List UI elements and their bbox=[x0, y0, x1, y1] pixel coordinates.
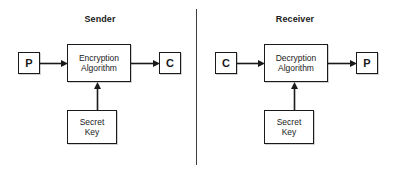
arrow-decryption-to-plaintext-icon bbox=[328, 60, 357, 67]
sender-secret-key-line-2: Key bbox=[85, 127, 100, 137]
encryption-algorithm-line-2: Algorithm bbox=[81, 63, 117, 73]
decryption-algorithm-line-2: Algorithm bbox=[278, 63, 314, 73]
arrow-encryption-to-ciphertext-icon bbox=[131, 60, 160, 67]
arrow-ciphertext-to-decryption-icon bbox=[237, 60, 265, 67]
panel-divider bbox=[196, 9, 197, 165]
arrow-secret-key-to-encryption-icon bbox=[94, 82, 101, 111]
receiver-secret-key-line-2: Key bbox=[282, 127, 297, 137]
receiver-plaintext-node: P bbox=[356, 52, 378, 74]
sender-secret-key-line-1: Secret bbox=[80, 117, 105, 127]
sender-plaintext-node: P bbox=[18, 52, 40, 74]
sender-panel-title: Sender bbox=[60, 14, 140, 24]
encryption-algorithm-node: Encryption Algorithm bbox=[67, 44, 131, 82]
receiver-ciphertext-node: C bbox=[215, 52, 237, 74]
receiver-secret-key-node: Secret Key bbox=[264, 110, 314, 144]
receiver-secret-key-line-1: Secret bbox=[277, 117, 302, 127]
diagram-canvas: Sender Receiver P Encryption Algorithm C… bbox=[0, 0, 394, 171]
receiver-panel-title: Receiver bbox=[255, 14, 335, 24]
sender-ciphertext-node: C bbox=[159, 52, 181, 74]
decryption-algorithm-node: Decryption Algorithm bbox=[264, 44, 328, 82]
sender-secret-key-node: Secret Key bbox=[67, 110, 117, 144]
decryption-algorithm-line-1: Decryption bbox=[276, 53, 317, 63]
encryption-algorithm-line-1: Encryption bbox=[79, 53, 119, 63]
arrow-secret-key-to-decryption-icon bbox=[291, 82, 298, 111]
arrow-plaintext-to-encryption-icon bbox=[40, 60, 68, 67]
